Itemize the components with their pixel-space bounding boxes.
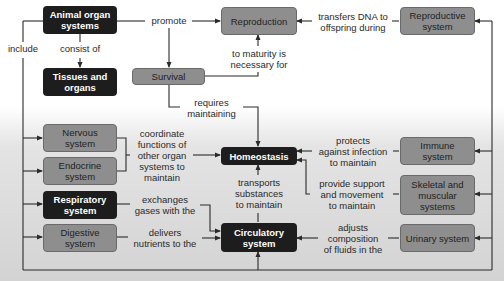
node-reproduction: Reproduction (221, 7, 297, 35)
node-skeletal-muscular-systems: Skeletal and muscular systems (400, 175, 475, 215)
node-circulatory-system: Circulatory system (221, 223, 297, 252)
label-promote: promote (146, 15, 192, 26)
label-transfers-dna: transfers DNA to offspring during (312, 11, 394, 33)
node-tissues-and-organs: Tissues and organs (43, 68, 117, 96)
label-requires-maintaining: requires maintaining (180, 97, 243, 119)
label-consist-of: consist of (54, 43, 106, 54)
label-coordinate: coordinate functions of other organ syst… (130, 128, 194, 183)
node-urinary-system: Urinary system (400, 224, 475, 252)
node-immune-system: Immune system (400, 137, 475, 165)
label-transports: transports substances to maintain (222, 177, 296, 210)
label-include: include (4, 43, 42, 54)
label-delivers-nutrients: delivers nutrients to the (128, 227, 202, 249)
label-adjusts-fluids: adjusts composition of fluids in the (318, 222, 388, 255)
node-endocrine-system: Endocrine system (43, 157, 117, 185)
node-digestive-system: Digestive system (43, 224, 117, 252)
node-homeostasis: Homeostasis (221, 147, 297, 165)
node-nervous-system: Nervous system (43, 124, 117, 152)
node-animal-organ-systems: Animal organ systems (43, 6, 117, 34)
node-survival: Survival (132, 68, 205, 85)
node-reproductive-system: Reproductive system (400, 7, 475, 35)
label-maturity: to maturity is necessary for (222, 48, 296, 70)
concept-map: Animal organ systems Tissues and organs … (0, 0, 504, 281)
label-support-movement: provide support and movement to maintain (310, 178, 394, 211)
label-exchanges-gases: exchanges gases with the (130, 194, 200, 216)
node-respiratory-system: Respiratory system (43, 191, 117, 219)
label-protects: protects against infection to maintain (312, 135, 394, 168)
